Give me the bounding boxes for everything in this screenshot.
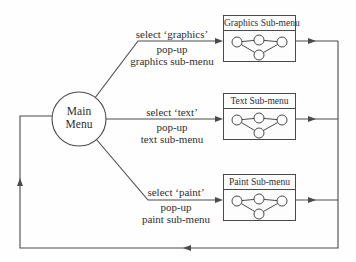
submenu-node [254,113,264,123]
text-submenu-window[interactable]: Text Sub-menu [223,93,296,140]
text-submenu-graph [224,109,295,140]
paint-select-label: select ‘paint’ [124,186,228,198]
text-popup-label: pop-up [120,121,224,133]
arrowhead-exit-graphics [308,38,316,44]
text-select-label: select ‘text’ [120,106,224,118]
main-menu-label: Main Menu [49,105,109,131]
submenu-node [254,50,264,60]
submenu-node [254,209,264,219]
submenu-node [254,194,264,204]
submenu-node [277,37,287,47]
text-submenu-title: Text Sub-menu [224,94,295,109]
arrowhead-bottom-return [183,245,191,251]
paint-popup-label: pop-up [124,201,228,213]
branch-label-graphics: select ‘graphics’ pop-up graphics sub-me… [120,28,224,67]
arrowhead-left-up [17,178,23,186]
graphics-popup-label: pop-up [120,43,224,55]
submenu-node [277,196,287,206]
arrowhead-exit-text [308,116,316,122]
paint-submenu-body [224,190,295,221]
text-submenu-label: text sub-menu [120,133,224,145]
arrowhead-exit-paint [308,197,316,203]
main-menu-label-line1: Main [49,105,109,118]
submenu-node [277,115,287,125]
branch-label-paint: select ‘paint’ pop-up paint sub-menu [124,186,228,225]
submenu-node [232,115,242,125]
paint-submenu-window[interactable]: Paint Sub-menu [223,174,296,221]
submenu-node [254,35,264,45]
text-submenu-body [224,109,295,140]
graphics-submenu-body [224,31,295,62]
menu-flow-diagram: Main Menu select ‘graphics’ pop-up graph… [0,0,356,262]
graphics-submenu-title: Graphics Sub-menu [224,16,295,31]
graphics-submenu-label: graphics sub-menu [120,55,224,67]
branch-label-text: select ‘text’ pop-up text sub-menu [120,106,224,145]
graphics-submenu-window[interactable]: Graphics Sub-menu [223,15,296,62]
paint-submenu-label: paint sub-menu [124,213,228,225]
paint-submenu-title: Paint Sub-menu [224,175,295,190]
paint-submenu-graph [224,190,295,221]
submenu-node [254,128,264,138]
submenu-node [232,37,242,47]
graphics-select-label: select ‘graphics’ [120,28,224,40]
submenu-node [232,196,242,206]
graphics-submenu-graph [224,31,295,62]
main-menu-label-line2: Menu [49,118,109,131]
